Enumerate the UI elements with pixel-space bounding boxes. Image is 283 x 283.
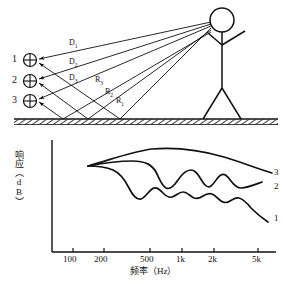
ray-label-reflected-2: R2 xyxy=(105,88,113,98)
tick-label-2k: 2k xyxy=(208,255,217,264)
reflected-ray-2 xyxy=(39,30,211,119)
series-curve-2 xyxy=(88,161,262,189)
series-label-3: 3 xyxy=(274,168,279,177)
chart-series-group xyxy=(88,148,272,222)
series-curve-3 xyxy=(88,148,272,173)
direct-rays-group xyxy=(39,22,211,99)
direct-ray-2 xyxy=(39,24,211,79)
tick-label-500: 500 xyxy=(140,255,154,264)
ray-label-direct-1: D1 xyxy=(69,39,78,49)
y-axis-title: 响应（dB） xyxy=(14,150,23,206)
circled-plus-icon-2 xyxy=(24,75,37,88)
upper-scene xyxy=(14,8,278,125)
stick-figure-arm-left xyxy=(208,33,222,45)
hatched-ground-icon xyxy=(14,119,278,125)
source-label-3: 3 xyxy=(12,95,17,105)
ray-label-reflected-3: R3 xyxy=(95,76,103,86)
stick-figure-leg-right xyxy=(222,88,241,119)
circled-plus-icon-1 xyxy=(24,54,37,67)
circled-plus-icon-3 xyxy=(24,95,37,108)
figure-root: 1 2 3 D1 D2 D3 R3 R2 R1 3 2 1 100 200 50… xyxy=(0,0,283,283)
stick-figure-head xyxy=(210,8,234,32)
stick-figure-leg-left xyxy=(203,88,222,119)
tick-label-1k: 1k xyxy=(176,255,185,264)
ray-label-reflected-1: R1 xyxy=(116,97,124,107)
direct-ray-3 xyxy=(39,26,211,99)
stick-figure-arm-right xyxy=(222,31,245,45)
ray-label-reflected-1-sub: 1 xyxy=(121,101,124,107)
series-label-1: 1 xyxy=(274,214,279,223)
ray-label-reflected-2-sub: 2 xyxy=(110,92,113,98)
source-label-2: 2 xyxy=(12,75,17,85)
reflected-ray-3 xyxy=(39,32,211,119)
response-chart xyxy=(52,140,276,252)
reflected-ray-1 xyxy=(39,28,211,119)
series-label-2: 2 xyxy=(274,182,279,191)
tick-label-100: 100 xyxy=(63,255,77,264)
reflected-rays-group xyxy=(39,28,211,119)
ray-label-reflected-3-sub: 3 xyxy=(100,80,103,86)
ray-label-direct-3: D3 xyxy=(69,74,78,84)
series-curve-1 xyxy=(88,166,268,222)
receiver-markers-group xyxy=(24,54,37,108)
chart-axes xyxy=(52,140,276,252)
figure-canvas xyxy=(0,0,283,283)
ray-label-direct-2-sub: 2 xyxy=(75,62,78,68)
ray-label-direct-3-sub: 3 xyxy=(75,78,78,84)
ray-label-direct-2: D2 xyxy=(69,58,78,68)
tick-label-200: 200 xyxy=(94,255,108,264)
tick-label-5k: 5k xyxy=(252,255,261,264)
source-label-1: 1 xyxy=(12,54,17,64)
x-axis-title: 频率（Hz） xyxy=(130,267,177,276)
ray-label-direct-1-sub: 1 xyxy=(75,43,78,49)
